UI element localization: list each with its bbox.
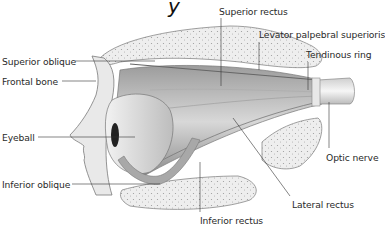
label-inferior-rectus: Inferior rectus xyxy=(200,215,263,226)
label-inferior-oblique: Inferior oblique xyxy=(2,179,70,190)
optic-nerve-shape xyxy=(312,78,355,106)
label-superior-rectus: Superior rectus xyxy=(219,6,288,17)
label-levator-palpebral-superioris: Levator palpebral superioris xyxy=(259,29,385,40)
label-lateral-rectus: Lateral rectus xyxy=(292,199,354,210)
label-superior-oblique: Superior oblique xyxy=(2,56,76,67)
tendinous-ring-shape xyxy=(312,78,320,106)
label-tendinous-ring: Tendinous ring xyxy=(306,49,371,60)
label-frontal-bone: Frontal bone xyxy=(2,76,58,87)
label-eyeball: Eyeball xyxy=(2,132,35,143)
label-optic-nerve: Optic nerve xyxy=(326,152,378,163)
